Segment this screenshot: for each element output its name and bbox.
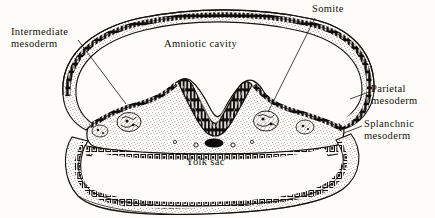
label-amniotic-cavity: Amniotic cavity bbox=[164, 38, 237, 50]
label-intermediate-mesoderm-line2: mesoderm bbox=[11, 38, 58, 49]
label-parietal-mesoderm-line1: Parietal bbox=[371, 83, 406, 94]
label-splanchnic-mesoderm-line1: Splanchnic bbox=[364, 118, 414, 129]
label-splanchnic-mesoderm: Splanchnic mesoderm bbox=[364, 118, 414, 141]
label-intermediate-mesoderm-line1: Intermediate bbox=[11, 26, 68, 37]
label-somite: Somite bbox=[312, 3, 344, 15]
label-parietal-mesoderm-line2: mesoderm bbox=[371, 95, 418, 106]
label-intermediate-mesoderm: Intermediate mesoderm bbox=[11, 26, 68, 49]
somite bbox=[254, 111, 279, 131]
label-yolk-sac: Yolk sac bbox=[186, 156, 225, 168]
intermediate-mesoderm bbox=[92, 125, 108, 137]
notochord bbox=[205, 138, 224, 147]
intermediate-condensation-right bbox=[296, 120, 314, 134]
label-splanchnic-mesoderm-line2: mesoderm bbox=[364, 130, 411, 141]
somite-left bbox=[117, 113, 141, 132]
label-parietal-mesoderm: Parietal mesoderm bbox=[371, 83, 418, 106]
